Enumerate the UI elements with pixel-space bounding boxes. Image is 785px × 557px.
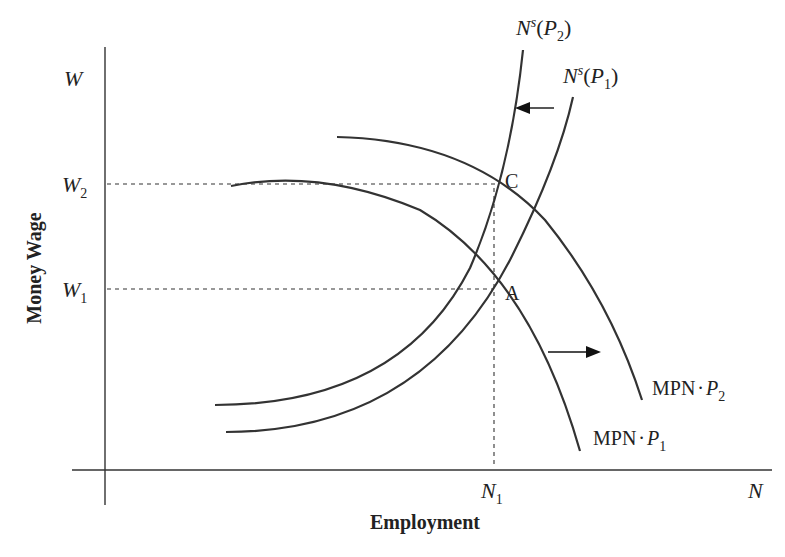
y-axis-title: Money Wage [23,212,46,323]
labor-supply-curve-p1 [226,97,573,432]
x-axis-title: Employment [370,511,480,534]
labor-supply-p1-label: Ns(P1) [562,63,618,92]
labor-market-diagram: W W2 W1 Money Wage N1 N Employment Ns(P2… [0,0,785,557]
w1-tick-label: W1 [62,277,87,306]
x-axis-variable-label: N [747,478,764,503]
labor-demand-p1-label: MPN·P1 [593,427,666,454]
equilibrium-point-a-label: A [505,282,520,304]
y-axis-variable-label: W [64,66,84,91]
labor-supply-p2-label: Ns(P2) [515,15,571,44]
n1-tick-label: N1 [480,478,503,507]
w2-tick-label: W2 [62,172,87,201]
supply-shift-left-arrow [515,102,554,114]
demand-shift-right-arrow [548,346,601,358]
labor-demand-p2-label: MPN·P2 [652,377,725,404]
labor-supply-curve-p2 [215,50,523,405]
equilibrium-point-c-label: C [505,170,518,192]
